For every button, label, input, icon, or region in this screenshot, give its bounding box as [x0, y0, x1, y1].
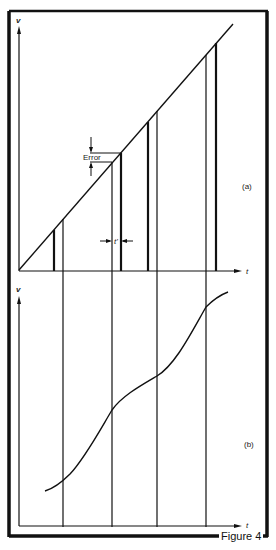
ramp-line [19, 24, 233, 270]
response-curve [45, 292, 228, 491]
y-axis-label-b: v [16, 285, 21, 294]
x-axis-label-a: t [246, 267, 249, 276]
panel-a-label: (a) [242, 182, 252, 191]
panel-b-label: (b) [244, 440, 254, 449]
y-axis-arrow-icon [17, 26, 21, 34]
x-axis-arrow-icon [234, 269, 242, 273]
panel-a [17, 24, 242, 273]
error-label: Error [83, 153, 101, 162]
outer-frame [9, 11, 268, 537]
y-axis-b-arrow-icon [17, 296, 21, 304]
error-arrow-up-icon [89, 162, 93, 168]
figure-caption: Figure 4 [219, 530, 263, 542]
figure-canvas: v t (a) Error t' v t (b) [0, 0, 276, 550]
x-axis-label-b: t [246, 521, 249, 530]
interval-arrow-right-icon [106, 239, 112, 243]
x-axis-b-arrow-icon [234, 524, 242, 528]
panel-b [17, 292, 242, 528]
y-axis-label-a: v [16, 16, 21, 25]
interval-label: t' [114, 237, 118, 246]
